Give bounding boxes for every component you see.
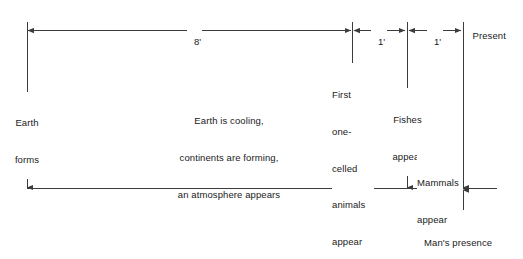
first-animals-line-1: First <box>332 89 374 101</box>
event-label-first-one-celled-animals: First one- celled animals appear <box>332 64 374 259</box>
first-animals-line-3: celled <box>332 163 374 175</box>
mammals-line-1: Mammals <box>417 177 463 189</box>
event-label-earth-cooling: Earth is cooling, continents are forming… <box>135 91 323 213</box>
measure-label-8ft: 8' <box>178 25 212 47</box>
measure-label-1ft-b: 1' <box>418 25 452 47</box>
event-label-mans-presence: Man's presence on earth is a line 1/20,0… <box>424 213 520 259</box>
mans-presence-line-1: Man's presence <box>424 237 520 249</box>
measure-label-1ft-a: 1' <box>362 25 396 47</box>
measure-label-1ft-a-text: 1' <box>378 36 385 47</box>
measure-label-1ft-b-text: 1' <box>434 36 441 47</box>
earth-cooling-line-1: Earth is cooling, <box>135 115 323 127</box>
first-animals-line-4: animals <box>332 199 374 211</box>
earth-forms-line-2: forms <box>3 154 51 166</box>
fishes-line-1: Fishes <box>384 114 431 126</box>
first-animals-line-5: appear <box>332 236 374 248</box>
earth-cooling-line-3: an atmosphere appears <box>135 189 323 201</box>
earth-cooling-line-2: continents are forming, <box>135 152 323 164</box>
first-animals-line-2: one- <box>332 126 374 138</box>
event-label-earth-forms: Earth forms <box>3 92 51 179</box>
earth-forms-line-1: Earth <box>3 117 51 129</box>
measure-label-8ft-text: 8' <box>194 36 201 47</box>
present-label: Present <box>467 18 506 42</box>
present-label-text: Present <box>472 30 505 41</box>
